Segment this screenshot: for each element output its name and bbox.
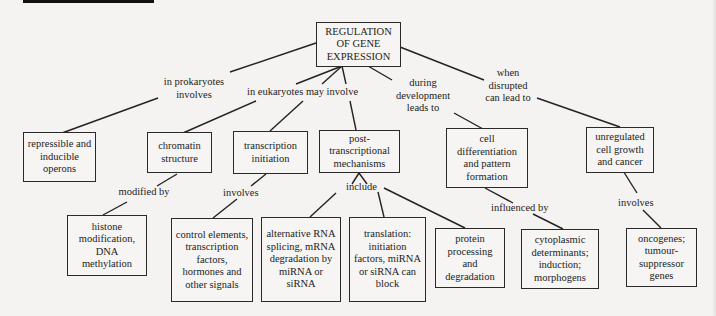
link-label-involves-cancer: involves bbox=[618, 197, 654, 210]
node-operons: repressible and inducible operons bbox=[23, 132, 96, 182]
link-label-prokaryotes: in prokaryotes involves bbox=[156, 76, 232, 101]
link-label-modified: modified by bbox=[117, 186, 171, 199]
node-chromatin: chromatin structure bbox=[147, 132, 212, 173]
node-translation: translation: initiation factors, miRNA o… bbox=[349, 217, 426, 302]
node-transcription: transcription initiation bbox=[233, 131, 308, 174]
link-label-involves-transcription: involves bbox=[223, 187, 259, 200]
node-protein: protein processing and degradation bbox=[435, 228, 505, 288]
link-label-development: during development leads to bbox=[390, 77, 456, 115]
node-cancer: unregulated cell growth and cancer bbox=[586, 127, 654, 173]
link-label-include: include bbox=[346, 181, 377, 194]
root-node: REGULATION OF GENE EXPRESSION bbox=[316, 22, 401, 67]
node-posttranscriptional: post-transcriptional mechanisms bbox=[319, 130, 400, 173]
node-splicing: alternative RNA splicing, mRNA degradati… bbox=[261, 217, 341, 302]
link-label-influenced: influenced by bbox=[491, 202, 548, 215]
node-histone: histone modification, DNA methylation bbox=[67, 215, 147, 276]
link-label-disrupted: when disrupted can lead to bbox=[480, 67, 536, 105]
node-control: control elements, transcription factors,… bbox=[171, 218, 253, 302]
node-cytoplasmic: cytoplasmic determinants; induction; mor… bbox=[521, 229, 599, 289]
node-differentiation: cell differentiation and pattern formati… bbox=[446, 128, 528, 188]
link-label-eukaryotes: in eukaryotes may involve bbox=[247, 86, 358, 99]
node-oncogenes: oncogenes; tumour-suppressor genes bbox=[626, 228, 697, 287]
